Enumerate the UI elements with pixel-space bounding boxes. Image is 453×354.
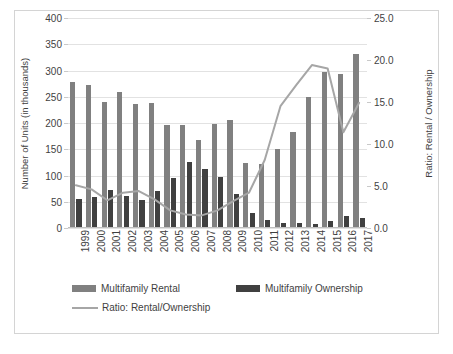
legend-row-1: Multifamily Rental Multifamily Ownership bbox=[72, 283, 402, 302]
bar-group bbox=[257, 18, 273, 228]
bar-group bbox=[225, 18, 241, 228]
y-axis-right-tick-mark bbox=[367, 60, 371, 61]
y-axis-right-tick-mark bbox=[367, 228, 371, 229]
x-axis-tick-label: 2008 bbox=[222, 230, 233, 252]
bar-multifamily-rental bbox=[290, 132, 295, 228]
bar-group bbox=[304, 18, 320, 228]
legend-label-ownership: Multifamily Ownership bbox=[265, 283, 363, 294]
bar-multifamily-rental bbox=[338, 74, 343, 228]
bar-group bbox=[351, 18, 367, 228]
bar-group bbox=[320, 18, 336, 228]
y-axis-left-tick-label: 350 bbox=[45, 39, 62, 50]
y-axis-right-tick-label: 15.0 bbox=[374, 97, 393, 108]
bar-group bbox=[147, 18, 163, 228]
y-axis-left-tick-label: 0 bbox=[56, 223, 62, 234]
x-axis-tick-label: 2006 bbox=[190, 230, 201, 252]
y-axis-right-tick-label: 20.0 bbox=[374, 55, 393, 66]
y-axis-right-tick-label: 25.0 bbox=[374, 13, 393, 24]
bar-multifamily-ownership bbox=[92, 197, 97, 228]
bar-group bbox=[288, 18, 304, 228]
bar-multifamily-ownership bbox=[124, 196, 129, 228]
bar-multifamily-rental bbox=[243, 163, 248, 228]
x-axis-tick-label: 2001 bbox=[111, 230, 122, 252]
bar-multifamily-rental bbox=[149, 103, 154, 228]
bar-multifamily-rental bbox=[306, 97, 311, 228]
bar-group bbox=[194, 18, 210, 228]
bar-multifamily-rental bbox=[180, 125, 185, 228]
bar-multifamily-rental bbox=[353, 54, 358, 228]
y-axis-right-tick-mark bbox=[367, 102, 371, 103]
bar-multifamily-ownership bbox=[250, 213, 255, 228]
chart-plot-area: 050100150200250300350400 0.05.010.015.02… bbox=[68, 18, 367, 228]
bar-group bbox=[84, 18, 100, 228]
y-axis-title-left: Number of Units (in thousands) bbox=[19, 34, 30, 214]
bar-multifamily-rental bbox=[133, 104, 138, 228]
y-axis-left-tick-label: 200 bbox=[45, 118, 62, 129]
legend-item-multifamily-rental: Multifamily Rental bbox=[72, 283, 180, 294]
legend-label-rental: Multifamily Rental bbox=[101, 283, 180, 294]
bar-multifamily-ownership bbox=[234, 194, 239, 228]
legend-label-ratio: Ratio: Rental/Ownership bbox=[102, 302, 210, 313]
bar-multifamily-ownership bbox=[171, 178, 176, 228]
bar-group bbox=[115, 18, 131, 228]
bar-multifamily-ownership bbox=[202, 169, 207, 228]
legend-item-multifamily-ownership: Multifamily Ownership bbox=[236, 283, 363, 294]
bar-group bbox=[162, 18, 178, 228]
bar-multifamily-rental bbox=[86, 85, 91, 228]
gridline bbox=[68, 228, 367, 229]
bar-multifamily-ownership bbox=[76, 199, 81, 228]
y-axis-right-tick-mark bbox=[367, 186, 371, 187]
x-axis-baseline bbox=[68, 227, 367, 228]
x-axis-tick-label: 1999 bbox=[80, 230, 91, 252]
legend-swatch-ratio-line-icon bbox=[72, 307, 98, 309]
y-axis-left-tick-mark bbox=[64, 228, 68, 229]
bar-multifamily-ownership bbox=[187, 162, 192, 228]
bar-multifamily-rental bbox=[117, 92, 122, 228]
legend-swatch-ownership-icon bbox=[236, 285, 260, 292]
x-axis-tick-label: 2015 bbox=[332, 230, 343, 252]
x-axis-tick-label: 2002 bbox=[127, 230, 138, 252]
y-axis-right-tick-mark bbox=[367, 18, 371, 19]
bar-multifamily-rental bbox=[196, 140, 201, 228]
bar-multifamily-rental bbox=[227, 120, 232, 228]
x-axis-tick-label: 2016 bbox=[347, 230, 358, 252]
x-axis-tick-label: 2017 bbox=[363, 230, 374, 252]
x-axis-tick-label: 2011 bbox=[269, 230, 280, 252]
bar-multifamily-rental bbox=[102, 102, 107, 228]
x-axis-tick-label: 2013 bbox=[300, 230, 311, 252]
x-axis-tick-label: 2007 bbox=[206, 230, 217, 252]
chart-figure: Number of Units (in thousands) Ratio: Re… bbox=[0, 0, 453, 354]
y-axis-left-tick-label: 50 bbox=[51, 196, 62, 207]
bar-multifamily-ownership bbox=[108, 190, 113, 228]
legend-swatch-rental-icon bbox=[72, 285, 96, 292]
bar-group bbox=[241, 18, 257, 228]
x-axis-tick-label: 2009 bbox=[237, 230, 248, 252]
x-axis-tick-label: 2004 bbox=[159, 230, 170, 252]
bar-group bbox=[68, 18, 84, 228]
x-axis-tick-label: 2003 bbox=[143, 230, 154, 252]
y-axis-right-tick-label: 0.0 bbox=[374, 223, 388, 234]
x-axis-tick-label: 2010 bbox=[253, 230, 264, 252]
legend-row-2: Ratio: Rental/Ownership bbox=[72, 302, 402, 321]
bar-multifamily-rental bbox=[212, 124, 217, 228]
bar-multifamily-ownership bbox=[139, 200, 144, 228]
y-axis-right-tick-mark bbox=[367, 144, 371, 145]
y-axis-left-tick-label: 250 bbox=[45, 91, 62, 102]
y-axis-left-tick-label: 400 bbox=[45, 13, 62, 24]
x-axis-labels: 1999200020012002200320042005200620072008… bbox=[68, 230, 367, 278]
y-axis-right-tick-label: 10.0 bbox=[374, 139, 393, 150]
legend-item-ratio: Ratio: Rental/Ownership bbox=[72, 302, 210, 313]
x-axis-tick-label: 2000 bbox=[96, 230, 107, 252]
bar-multifamily-rental bbox=[70, 82, 75, 228]
y-axis-left-tick-label: 300 bbox=[45, 65, 62, 76]
x-axis-tick-label: 2014 bbox=[316, 230, 327, 252]
bar-group bbox=[273, 18, 289, 228]
chart-legend: Multifamily Rental Multifamily Ownership… bbox=[72, 283, 402, 321]
bar-group bbox=[336, 18, 352, 228]
y-axis-left-tick-label: 100 bbox=[45, 170, 62, 181]
bar-multifamily-rental bbox=[259, 164, 264, 228]
bar-multifamily-rental bbox=[275, 149, 280, 228]
y-axis-right-tick-label: 5.0 bbox=[374, 181, 388, 192]
bar-multifamily-ownership bbox=[218, 177, 223, 228]
bar-multifamily-rental bbox=[322, 72, 327, 228]
